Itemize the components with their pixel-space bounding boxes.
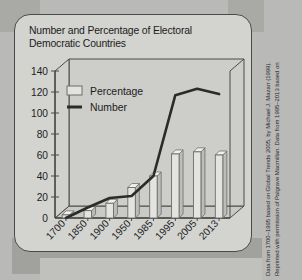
attribution-note: Data from 1700–1995 based on Global Tren…: [258, 0, 302, 280]
figure-card: Number and Percentage of Electoral Democ…: [14, 14, 252, 252]
bar: [106, 199, 118, 218]
svg-text:1950: 1950: [109, 218, 133, 242]
svg-text:Number: Number: [90, 102, 127, 113]
attribution-line-2: Reprinted with permission of Palgrave Ma…: [274, 62, 280, 276]
svg-text:2005: 2005: [175, 218, 199, 242]
svg-text:20: 20: [37, 192, 49, 203]
svg-text:2013: 2013: [197, 218, 221, 242]
svg-text:Percentage: Percentage: [90, 86, 143, 97]
svg-text:80: 80: [37, 129, 49, 140]
x-axis: 17001850190019501985199520052013: [44, 218, 221, 242]
svg-text:100: 100: [31, 108, 48, 119]
svg-text:140: 140: [31, 66, 48, 77]
svg-text:1900: 1900: [87, 218, 111, 242]
svg-text:60: 60: [37, 150, 49, 161]
svg-text:1995: 1995: [153, 218, 177, 242]
chart-svg: 140120100806040200 170018501900195019851…: [15, 15, 252, 252]
svg-text:40: 40: [37, 171, 49, 182]
svg-text:0: 0: [42, 213, 48, 224]
svg-text:1850: 1850: [66, 218, 90, 242]
bar: [193, 148, 205, 218]
attribution-line-1: Data from 1700–1995 based on Global Tren…: [265, 62, 271, 276]
backdrop-block-bottom-inner: [40, 258, 262, 280]
svg-text:120: 120: [31, 87, 48, 98]
bar: [215, 151, 227, 218]
plot-area: 140120100806040200 170018501900195019851…: [15, 15, 252, 252]
svg-text:1985: 1985: [131, 218, 155, 242]
bar: [172, 150, 184, 218]
